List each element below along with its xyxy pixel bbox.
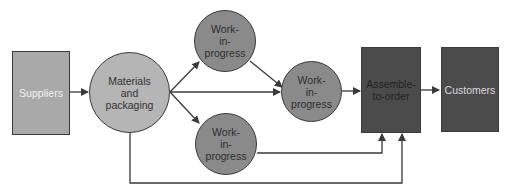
wip-bottom-label: Work- in- progress xyxy=(206,126,247,162)
customers-node: Customers xyxy=(441,47,499,132)
wip-top-label: Work- in- progress xyxy=(205,23,246,59)
suppliers-node: Suppliers xyxy=(12,51,70,135)
wip-bottom-node: Work- in- progress xyxy=(195,113,257,175)
edge-materials-assemble xyxy=(130,132,402,183)
edge-materials-wip-bottom xyxy=(170,92,199,123)
edge-materials-wip-top xyxy=(170,62,199,92)
assemble-to-order-node: Assemble- to-order xyxy=(361,47,421,133)
customers-label: Customers xyxy=(445,84,496,96)
edge-wip-top-wip-mid xyxy=(250,61,282,87)
connector-layer xyxy=(0,0,509,193)
wip-mid-label: Work- in- progress xyxy=(291,74,332,110)
assemble-to-order-label: Assemble- to-order xyxy=(366,78,416,102)
materials-label: Materials and packaging xyxy=(106,75,154,111)
edge-wip-bottom-assemble xyxy=(257,134,382,153)
materials-node: Materials and packaging xyxy=(89,52,170,133)
wip-top-node: Work- in- progress xyxy=(194,10,256,72)
suppliers-label: Suppliers xyxy=(19,87,63,99)
wip-mid-node: Work- in- progress xyxy=(281,61,342,122)
